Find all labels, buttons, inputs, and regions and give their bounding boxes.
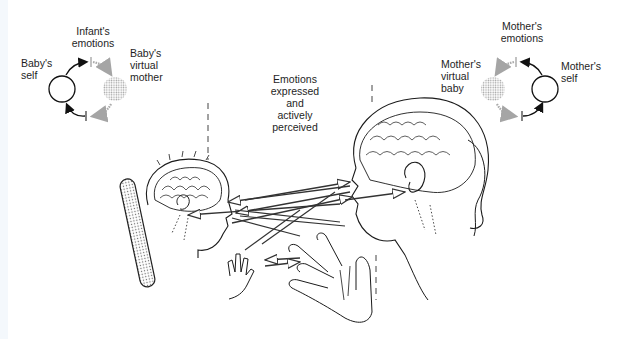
hand-arrow-left: [265, 258, 300, 260]
mothers-self-label: Mother's self: [561, 60, 601, 84]
baby-self-to-emotions-arrow: [66, 62, 86, 75]
communication-arrows: [188, 182, 405, 266]
baby-self-circle: [49, 76, 75, 102]
mother-head: [352, 98, 488, 300]
return-to-baby-self-arrow: [67, 105, 85, 116]
mother-self-circle: [532, 76, 558, 102]
mother-virtual-baby-circle: [481, 77, 505, 101]
mother-self-to-emotions-arrow: [522, 62, 542, 75]
mother-self-loop: [481, 57, 558, 121]
virtual-mother-to-self-arrow-gray: [94, 104, 111, 116]
center-caption: Emotions expressed and actively perceive…: [262, 73, 328, 133]
baby-self-loop: [49, 57, 127, 121]
baby-head: [147, 151, 232, 258]
diagram-canvas: Baby's self Infant's emotions Baby's vir…: [0, 0, 631, 339]
emotions-to-virtual-mother-arrow: [93, 62, 110, 73]
emotions-to-virtual-baby-arrow: [497, 62, 514, 73]
babys-virtual-mother-label: Baby's virtual mother: [130, 47, 163, 83]
return-to-mother-self-arrow: [523, 104, 542, 116]
babys-self-label: Baby's self: [21, 57, 52, 81]
mothers-virtual-baby-label: Mother's virtual baby: [441, 58, 481, 94]
baby-hand: [228, 254, 254, 299]
infants-emotions-label: Infant's emotions: [68, 25, 118, 49]
baby-virtual-mother-circle: [103, 77, 127, 101]
illustration: [0, 0, 631, 339]
mothers-emotions-label: Mother's emotions: [494, 20, 550, 44]
hand-arrow-right: [265, 262, 300, 266]
cushion: [119, 178, 157, 289]
virtual-baby-to-self-arrow-gray: [497, 104, 514, 116]
mother-hand: [289, 233, 372, 322]
